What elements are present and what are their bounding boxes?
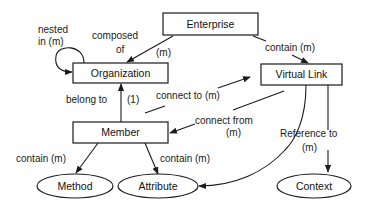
- node-enterprise-label: Enterprise: [187, 18, 235, 30]
- label-of: of: [116, 44, 125, 55]
- node-context: Context: [277, 174, 351, 198]
- label-nested-in-m: in (m): [38, 36, 64, 47]
- label-contain-method: contain (m): [16, 153, 66, 164]
- edge-contain-method: [76, 143, 98, 173]
- node-attribute: Attribute: [118, 174, 198, 198]
- node-organization: Organization: [73, 63, 168, 83]
- label-connect-to: connect to (m): [156, 90, 220, 101]
- label-connect-from: connect from: [195, 115, 253, 126]
- node-organization-label: Organization: [91, 67, 151, 79]
- node-method-label: Method: [57, 180, 92, 192]
- node-attribute-label: Attribute: [138, 180, 177, 192]
- er-diagram: Enterprise Organization Virtual Link Mem…: [0, 0, 365, 213]
- node-member: Member: [73, 122, 168, 143]
- node-method: Method: [37, 174, 113, 198]
- label-contain-vlink: contain (m): [265, 42, 315, 53]
- label-reference-to-m: (m): [302, 142, 317, 153]
- label-reference-to: Reference to: [280, 128, 338, 139]
- label-belong-to: belong to: [66, 94, 108, 105]
- label-contain-attribute: contain (m): [160, 153, 210, 164]
- node-context-label: Context: [296, 180, 332, 192]
- node-virtual-link: Virtual Link: [261, 64, 342, 85]
- node-virtual-link-label: Virtual Link: [276, 68, 329, 80]
- label-belong-multiplicity: (1): [127, 94, 139, 105]
- label-nested: nested: [38, 24, 68, 35]
- label-composed: composed: [92, 30, 138, 41]
- label-composed-multiplicity: (m): [156, 47, 171, 58]
- edge-contain-attribute: [145, 143, 158, 174]
- node-enterprise: Enterprise: [163, 13, 258, 35]
- node-member-label: Member: [101, 126, 140, 138]
- label-connect-from-m: (m): [226, 127, 241, 138]
